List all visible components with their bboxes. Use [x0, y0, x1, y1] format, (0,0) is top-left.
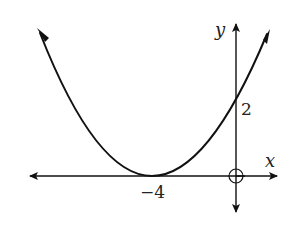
parabola-curve: [40, 33, 267, 176]
parabola-graph: y x 2 −4: [0, 0, 291, 226]
vertex-label: −4: [140, 182, 165, 202]
y-axis-label: y: [214, 19, 226, 40]
x-axis-label: x: [265, 150, 275, 171]
y-intercept-label: 2: [241, 99, 252, 119]
